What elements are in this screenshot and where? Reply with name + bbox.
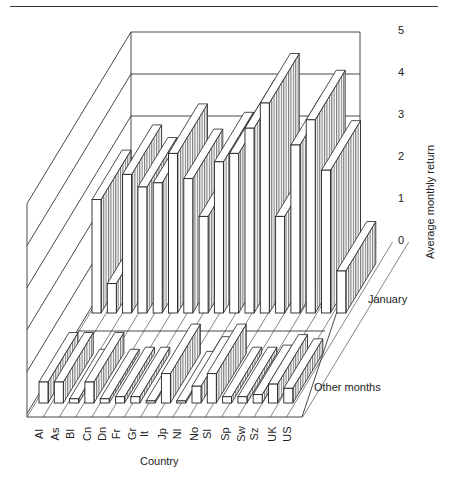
y-axis-label: Average monthly return	[420, 122, 440, 282]
y-tick-5: 5	[398, 24, 404, 36]
country-label-sl: Sl	[204, 420, 216, 450]
row-label-other-months: Other months	[314, 381, 381, 393]
y-tick-3: 3	[398, 108, 404, 120]
y-tick-0: 0	[398, 234, 404, 246]
country-label-nl: Nl	[174, 420, 186, 450]
country-label-jp: Jp	[158, 420, 170, 450]
y-tick-1: 1	[398, 192, 404, 204]
x-axis-title: Country	[140, 455, 179, 467]
country-label-sp: Sp	[220, 420, 232, 450]
country-label-sw: Sw	[235, 420, 247, 450]
country-label-us: US	[281, 420, 293, 450]
country-label-cn: Cn	[82, 420, 94, 450]
country-label-al: Al	[36, 420, 48, 450]
country-label-sz: Sz	[250, 420, 262, 450]
country-label-fr: Fr	[113, 420, 125, 450]
bar-chart-3d	[0, 0, 457, 485]
row-label-january: January	[368, 293, 407, 305]
country-label-dn: Dn	[97, 420, 109, 450]
other-months-bars	[39, 324, 323, 403]
country-label-as: As	[51, 420, 63, 450]
january-bars	[92, 54, 376, 314]
y-tick-4: 4	[398, 66, 404, 78]
y-tick-2: 2	[398, 150, 404, 162]
country-label-bl: Bl	[67, 420, 79, 450]
country-label-it: It	[143, 420, 155, 450]
country-label-no: No	[189, 420, 201, 450]
country-label-uk: UK	[266, 420, 278, 450]
